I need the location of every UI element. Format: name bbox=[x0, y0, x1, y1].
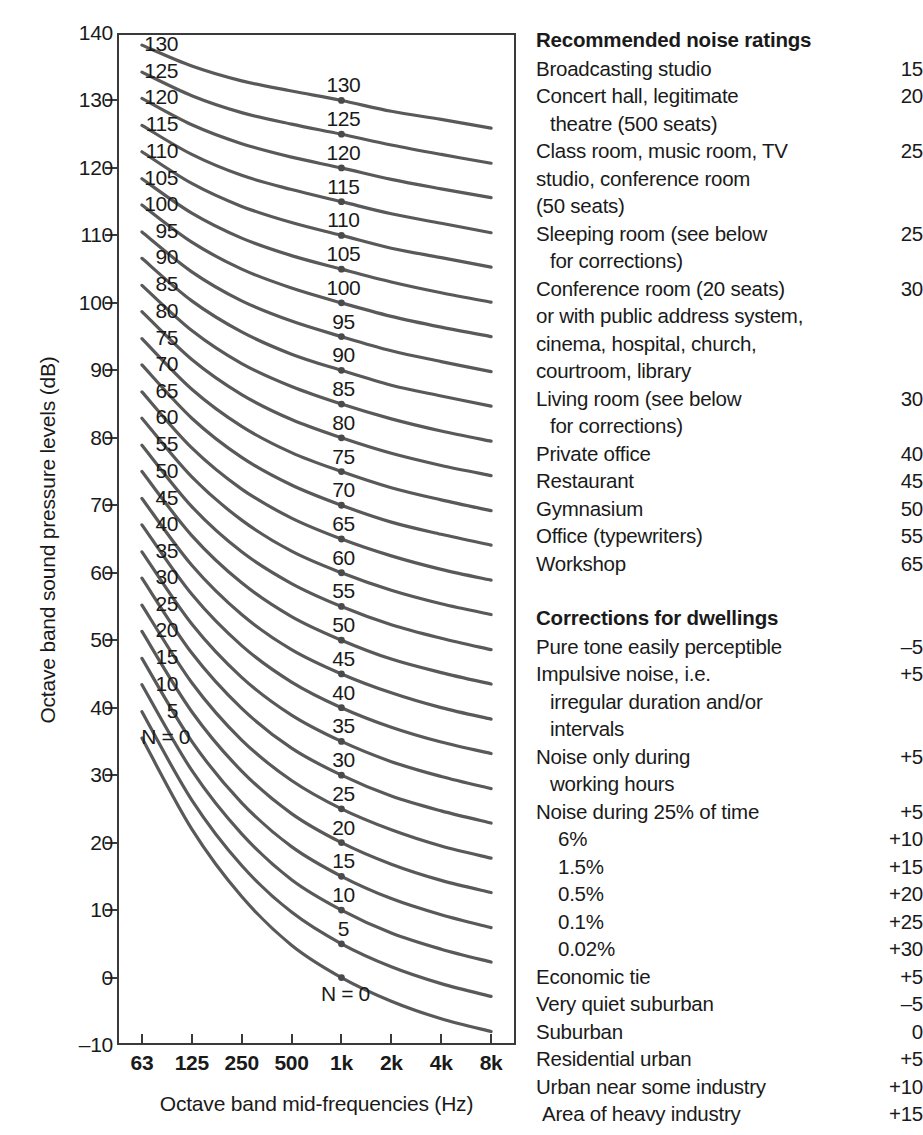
curve-marker-dot bbox=[338, 468, 345, 475]
table-row-label: 0.5% bbox=[558, 880, 604, 908]
curve-marker-dot bbox=[338, 805, 345, 812]
nr-curve bbox=[142, 152, 491, 267]
curve-label-midband: 5 bbox=[338, 918, 349, 939]
curve-marker-dot bbox=[338, 974, 345, 981]
curve-marker-dot bbox=[338, 367, 345, 374]
y-tick-label: 130 bbox=[39, 89, 113, 110]
table-row: theatre (500 seats) bbox=[536, 110, 923, 138]
table-row-value: 0 bbox=[863, 1018, 923, 1046]
table-row-value: +30 bbox=[863, 935, 923, 963]
curve-marker-dot bbox=[338, 266, 345, 273]
curve-marker-dot bbox=[338, 333, 345, 340]
curve-marker-dot bbox=[338, 907, 345, 914]
table-row: (50 seats) bbox=[536, 192, 923, 220]
table-row: Workshop65 bbox=[536, 550, 923, 578]
table-row-label: Sleeping room (see below bbox=[536, 220, 767, 248]
table-row: working hours bbox=[536, 770, 923, 798]
table-row-value: +5 bbox=[863, 743, 923, 771]
table-row-value: 25 bbox=[863, 137, 923, 165]
table-row-label: Impulsive noise, i.e. bbox=[536, 660, 711, 688]
curve-label-midband: 75 bbox=[332, 446, 355, 467]
table-row-value: 50 bbox=[863, 495, 923, 523]
curve-label-left: 120 bbox=[118, 86, 178, 107]
table-row: 6%+10 bbox=[536, 825, 923, 853]
curve-marker-dot bbox=[338, 772, 345, 779]
table-row-label: Living room (see below bbox=[536, 385, 741, 413]
curve-marker-dot bbox=[338, 569, 345, 576]
table-row-label: for corrections) bbox=[550, 247, 683, 275]
nr-curve bbox=[142, 98, 491, 197]
curve-label-midband: 105 bbox=[327, 243, 361, 264]
curve-label-midband: 20 bbox=[332, 817, 355, 838]
table-row: Sleeping room (see below25 bbox=[536, 220, 923, 248]
table-row: 0.02%+30 bbox=[536, 935, 923, 963]
section-spacer bbox=[536, 577, 923, 604]
table-row: Conference room (20 seats)30 bbox=[536, 275, 923, 303]
curve-marker-dot bbox=[338, 637, 345, 644]
x-tick-label: 8k bbox=[480, 1052, 503, 1074]
nr-curve bbox=[142, 205, 491, 337]
table-row-label: Office (typewriters) bbox=[536, 522, 703, 550]
curve-label-left: 100 bbox=[118, 193, 178, 214]
curve-label-midband: 25 bbox=[332, 783, 355, 804]
x-tick-mark bbox=[241, 1034, 243, 1045]
table-row: studio, conference room bbox=[536, 165, 923, 193]
x-tick-mark bbox=[141, 1034, 143, 1045]
curve-marker-dot bbox=[338, 839, 345, 846]
x-tick-mark bbox=[340, 1034, 342, 1045]
table-row-label: theatre (500 seats) bbox=[550, 110, 717, 138]
curve-label-midband: 110 bbox=[327, 209, 359, 230]
reference-table: Recommended noise ratings Broadcasting s… bbox=[536, 26, 923, 1128]
table-row-value: +5 bbox=[863, 660, 923, 688]
table-row-label: Area of heavy industry bbox=[542, 1100, 740, 1128]
table-row: Gymnasium50 bbox=[536, 495, 923, 523]
table-row: 0.5%+20 bbox=[536, 880, 923, 908]
table-row-label: 0.1% bbox=[558, 908, 604, 936]
table-row-value: 55 bbox=[863, 522, 923, 550]
section-heading-recommended: Recommended noise ratings bbox=[536, 26, 923, 54]
table-row: Area of heavy industry+15 bbox=[536, 1100, 923, 1128]
curve-label-left: 25 bbox=[118, 593, 178, 614]
table-row-value: 25 bbox=[863, 220, 923, 248]
table-row: Impulsive noise, i.e.+5 bbox=[536, 660, 923, 688]
x-tick-label: 1k bbox=[330, 1052, 353, 1074]
table-row: Economic tie+5 bbox=[536, 963, 923, 991]
table-row: Urban near some industry+10 bbox=[536, 1073, 923, 1101]
table-row-value: +10 bbox=[863, 825, 923, 853]
curve-label-left: N = 0 bbox=[118, 726, 190, 747]
table-row-label: 6% bbox=[558, 825, 587, 853]
curve-label-midband: 115 bbox=[327, 176, 359, 197]
curve-label-midband: 80 bbox=[332, 412, 355, 433]
curve-marker-dot bbox=[338, 671, 345, 678]
table-row-value: 15 bbox=[863, 55, 923, 83]
nr-curve bbox=[142, 605, 491, 858]
y-tick-label: –10 bbox=[39, 1034, 113, 1055]
table-row-value: 40 bbox=[863, 440, 923, 468]
table-row-label: or with public address system, bbox=[536, 302, 803, 330]
curve-label-left: 65 bbox=[118, 380, 178, 401]
y-tick-label: 0 bbox=[39, 967, 113, 988]
curve-label-left: 130 bbox=[118, 33, 178, 54]
x-tick-label: 125 bbox=[175, 1052, 209, 1074]
nr-curve bbox=[142, 339, 491, 511]
nr-curve bbox=[142, 552, 491, 789]
x-tick-mark bbox=[291, 1034, 293, 1045]
curve-label-midband: 35 bbox=[332, 715, 355, 736]
curve-label-midband: 90 bbox=[332, 344, 355, 365]
table-row-label: cinema, hospital, church, bbox=[536, 330, 757, 358]
table-row: Office (typewriters)55 bbox=[536, 522, 923, 550]
table-row: 1.5%+15 bbox=[536, 853, 923, 881]
curve-label-midband: 15 bbox=[332, 850, 355, 871]
curve-label-left: 90 bbox=[118, 246, 178, 267]
table-row-value: +5 bbox=[863, 963, 923, 991]
table-row: Restaurant45 bbox=[536, 467, 923, 495]
nr-curve bbox=[142, 45, 491, 128]
x-tick-label: 4k bbox=[430, 1052, 453, 1074]
curve-label-midband: 10 bbox=[332, 884, 355, 905]
curve-label-left: 5 bbox=[118, 700, 178, 721]
curve-marker-dot bbox=[338, 940, 345, 947]
curve-marker-dot bbox=[338, 502, 345, 509]
nr-curve bbox=[142, 445, 491, 649]
table-row-value: –5 bbox=[863, 990, 923, 1018]
x-tick-label: 500 bbox=[274, 1052, 308, 1074]
